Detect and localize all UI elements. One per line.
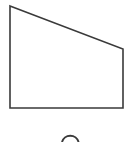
geometry-figure-canvas bbox=[0, 0, 134, 142]
